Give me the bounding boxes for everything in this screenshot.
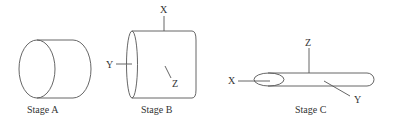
- stage-c: X Z Y Stage C: [228, 37, 374, 115]
- stage-c-caption: Stage C: [295, 104, 327, 115]
- stage-b-z-axis: [165, 66, 171, 78]
- stage-b-x-label: X: [160, 4, 168, 15]
- stage-b-y-label: Y: [106, 59, 113, 70]
- stage-c-end-face: [254, 73, 284, 86]
- stage-b-cylinder-body: [132, 31, 196, 98]
- stage-c-x-label: X: [228, 75, 236, 86]
- stage-b-z-label: Z: [172, 78, 178, 89]
- stage-a-front-face: [19, 40, 55, 98]
- cylinder-stages-diagram: Stage A X Y Z Stage B X Z: [0, 0, 393, 124]
- stage-c-z-label: Z: [305, 37, 311, 48]
- stage-a-cylinder-body: [37, 40, 91, 98]
- stage-b: X Y Z Stage B: [106, 4, 196, 115]
- stage-b-end-face: [127, 31, 138, 98]
- stage-a: Stage A: [19, 40, 91, 115]
- stage-c-y-axis: [324, 81, 350, 96]
- stage-a-caption: Stage A: [27, 104, 59, 115]
- stage-c-y-label: Y: [354, 94, 361, 105]
- stage-b-caption: Stage B: [141, 104, 173, 115]
